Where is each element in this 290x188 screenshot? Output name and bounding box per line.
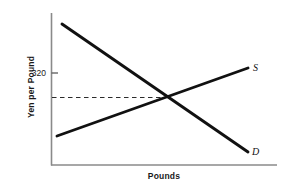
y-axis-title: Yen per Pound <box>26 56 36 118</box>
plot-area <box>0 0 290 188</box>
supply-curve <box>57 68 248 136</box>
x-axis-title: Pounds <box>51 171 277 181</box>
y-tick-label-320: 320 <box>14 68 46 78</box>
supply-curve-label: S <box>253 62 258 73</box>
demand-curve-label: D <box>252 146 259 157</box>
exchange-rate-supply-demand-figure: Yen per Pound Pounds 320 S D <box>0 0 290 188</box>
demand-curve <box>62 24 248 152</box>
